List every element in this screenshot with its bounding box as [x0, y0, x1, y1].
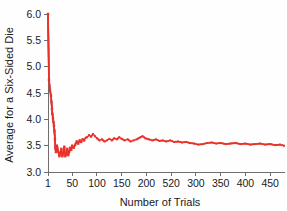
x-axis: 150100150200520300350400450 [45, 172, 285, 189]
data-point [189, 142, 191, 144]
data-point [71, 147, 73, 149]
data-point [278, 144, 280, 146]
data-point [53, 124, 55, 126]
data-point [191, 142, 193, 144]
data-point [223, 143, 225, 145]
data-point [279, 144, 281, 146]
data-point [268, 143, 270, 145]
data-point [59, 154, 61, 156]
data-point [106, 139, 108, 141]
data-point [117, 137, 119, 139]
data-point [269, 143, 271, 145]
x-tick-label: 200 [138, 177, 156, 189]
data-point [88, 134, 90, 136]
data-point [47, 20, 49, 22]
data-point [140, 136, 142, 138]
data-point [47, 36, 49, 38]
data-point [143, 136, 145, 138]
data-point [47, 23, 49, 25]
data-point [181, 142, 183, 144]
data-point [47, 18, 49, 20]
data-point [48, 77, 50, 79]
data-point [238, 143, 240, 145]
data-point [80, 141, 82, 143]
x-tick-label: 450 [261, 177, 279, 189]
data-point [67, 154, 69, 156]
x-tick-label: 350 [212, 177, 230, 189]
data-point [211, 142, 213, 144]
data-point [281, 144, 283, 146]
data-point [133, 139, 135, 141]
data-point [160, 140, 162, 142]
y-tick-label: 4.0 [26, 113, 41, 125]
data-point [64, 148, 66, 150]
data-point [48, 56, 50, 58]
x-tick-label: 300 [187, 177, 205, 189]
data-point [122, 139, 124, 141]
data-point [195, 143, 197, 145]
data-point [48, 61, 50, 63]
x-tick-label: 150 [113, 177, 131, 189]
data-point [48, 48, 50, 50]
data-point [197, 144, 199, 146]
data-point [54, 144, 56, 146]
running-average-line-chart: 3.03.54.04.55.05.56.0 150100150200520300… [0, 0, 287, 211]
data-point [51, 111, 53, 113]
data-point [83, 139, 85, 141]
data-point [235, 142, 237, 144]
data-point [54, 137, 56, 139]
data-point [64, 150, 66, 152]
data-point [48, 73, 50, 75]
data-point [128, 140, 130, 142]
data-point [283, 145, 285, 147]
y-tick-label: 6.0 [26, 8, 41, 20]
data-point [261, 143, 263, 145]
data-point [274, 144, 276, 146]
data-point [241, 143, 243, 145]
data-point [78, 141, 80, 143]
data-point [91, 135, 93, 137]
data-point [185, 141, 187, 143]
x-tick-label: 400 [237, 177, 255, 189]
data-point [47, 24, 49, 26]
data-point [48, 60, 50, 62]
data-point [228, 143, 230, 145]
y-tick-label: 4.5 [26, 87, 41, 99]
x-axis-title: Number of Trials [120, 196, 201, 208]
data-point [236, 142, 238, 144]
data-point [263, 143, 265, 145]
data-point [243, 143, 245, 145]
data-point [48, 74, 50, 76]
data-point [48, 42, 50, 44]
data-point [246, 143, 248, 145]
data-point [213, 142, 215, 144]
data-point [151, 139, 153, 141]
data-point [112, 138, 114, 140]
data-point [47, 15, 49, 17]
data-point [226, 143, 228, 145]
data-point [225, 143, 227, 145]
data-point [48, 82, 50, 84]
data-point [60, 148, 62, 150]
data-point [55, 151, 57, 153]
data-point [215, 143, 217, 145]
data-point [169, 139, 171, 141]
data-point [68, 152, 70, 154]
data-point [54, 140, 56, 142]
data-point [48, 81, 50, 83]
data-point [54, 133, 56, 135]
data-point [158, 140, 160, 142]
data-point [256, 143, 258, 145]
data-point [202, 143, 204, 145]
y-axis-title: Average for a Six-Sided Die [3, 27, 15, 163]
data-point [48, 45, 50, 47]
data-point [259, 143, 261, 145]
data-point [51, 113, 53, 115]
data-point [206, 142, 208, 144]
data-point [53, 128, 55, 130]
data-point [54, 132, 56, 134]
data-point [204, 143, 206, 145]
data-point [251, 144, 253, 146]
data-point [52, 121, 54, 123]
data-point [49, 91, 51, 93]
